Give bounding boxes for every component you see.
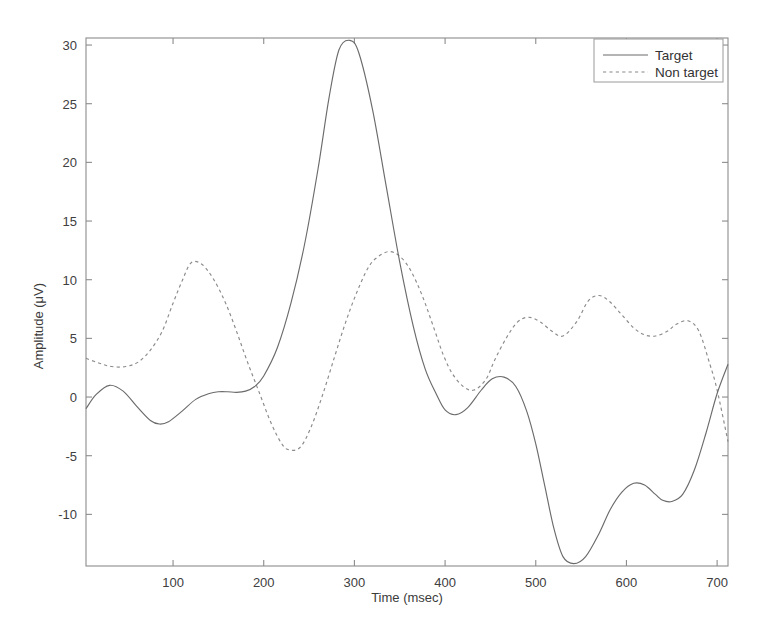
y-tick-label: -10	[58, 507, 77, 522]
x-axis-title: Time (msec)	[371, 590, 443, 605]
x-tick-label: 200	[253, 575, 275, 590]
y-tick-label: 30	[63, 38, 77, 53]
series-line-target	[86, 40, 728, 563]
x-tick-label: 700	[706, 575, 728, 590]
plot-frame	[86, 38, 728, 566]
x-tick-label: 600	[616, 575, 638, 590]
y-tick-label: 0	[70, 390, 77, 405]
y-axis-title: Amplitude (μV)	[31, 283, 46, 369]
y-tick-label: -5	[65, 449, 77, 464]
plot-axes	[86, 38, 728, 566]
y-tick-label: 25	[63, 97, 77, 112]
y-tick-label: 10	[63, 273, 77, 288]
y-tick-label: 20	[63, 155, 77, 170]
chart-figure: 100200300400500600700 -10-5051015202530 …	[0, 0, 770, 631]
legend-label-non-target: Non target	[655, 65, 718, 80]
legend-label-target: Target	[655, 48, 693, 63]
line-chart: 100200300400500600700 -10-5051015202530 …	[0, 0, 770, 631]
x-tick-label: 100	[162, 575, 184, 590]
y-tick-label: 15	[63, 214, 77, 229]
chart-legend[interactable]: Target Non target	[594, 39, 723, 82]
series-line-non-target	[86, 252, 728, 451]
x-tick-label: 300	[344, 575, 366, 590]
x-tick-label: 400	[434, 575, 456, 590]
y-axis-tick-labels: -10-5051015202530	[58, 38, 77, 522]
series-group	[86, 40, 728, 563]
y-tick-label: 5	[70, 331, 77, 346]
x-tick-label: 500	[525, 575, 547, 590]
x-axis-ticks	[173, 38, 717, 566]
x-axis-tick-labels: 100200300400500600700	[162, 575, 728, 590]
